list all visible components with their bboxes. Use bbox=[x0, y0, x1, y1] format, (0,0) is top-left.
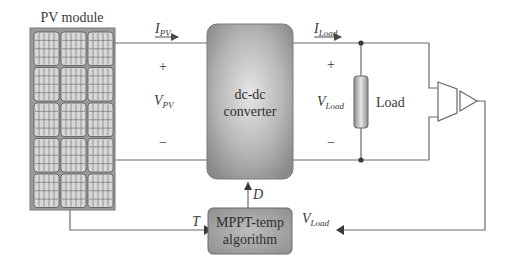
pv-cells bbox=[34, 32, 113, 208]
pv-module: PV module bbox=[30, 10, 115, 210]
junction-dot bbox=[358, 157, 363, 162]
svg-text:+: + bbox=[159, 59, 167, 74]
load-resistor: Load bbox=[354, 76, 405, 128]
d-arrow-icon bbox=[244, 182, 252, 190]
pv-mppt-diagram: PV module bbox=[0, 0, 510, 269]
svg-text:IPV: IPV bbox=[154, 21, 172, 38]
dc-dc-converter-block: dc-dc converter bbox=[207, 24, 293, 179]
svg-text:VLoad: VLoad bbox=[302, 211, 330, 228]
svg-text:+: + bbox=[327, 57, 335, 72]
voltage-sensor-amplifier bbox=[438, 82, 477, 121]
junction-dot bbox=[358, 40, 363, 45]
mppt-temp-algorithm-block: MPPT-temp algorithm bbox=[208, 208, 292, 254]
svg-text:VPV: VPV bbox=[154, 93, 175, 110]
converter-line2: converter bbox=[224, 104, 277, 119]
svg-text:VLoad: VLoad bbox=[317, 94, 345, 111]
svg-text:−: − bbox=[159, 135, 167, 150]
svg-text:T: T bbox=[192, 214, 201, 229]
mppt-line2: algorithm bbox=[223, 232, 278, 247]
vload-arrow-icon bbox=[336, 225, 344, 235]
pv-module-label: PV module bbox=[40, 10, 103, 25]
converter-line1: dc-dc bbox=[234, 87, 265, 102]
svg-text:ILoad: ILoad bbox=[313, 21, 338, 38]
svg-text:D: D bbox=[252, 187, 263, 202]
svg-text:−: − bbox=[327, 135, 335, 150]
load-label: Load bbox=[376, 95, 405, 110]
mppt-line1: MPPT-temp bbox=[216, 215, 284, 230]
